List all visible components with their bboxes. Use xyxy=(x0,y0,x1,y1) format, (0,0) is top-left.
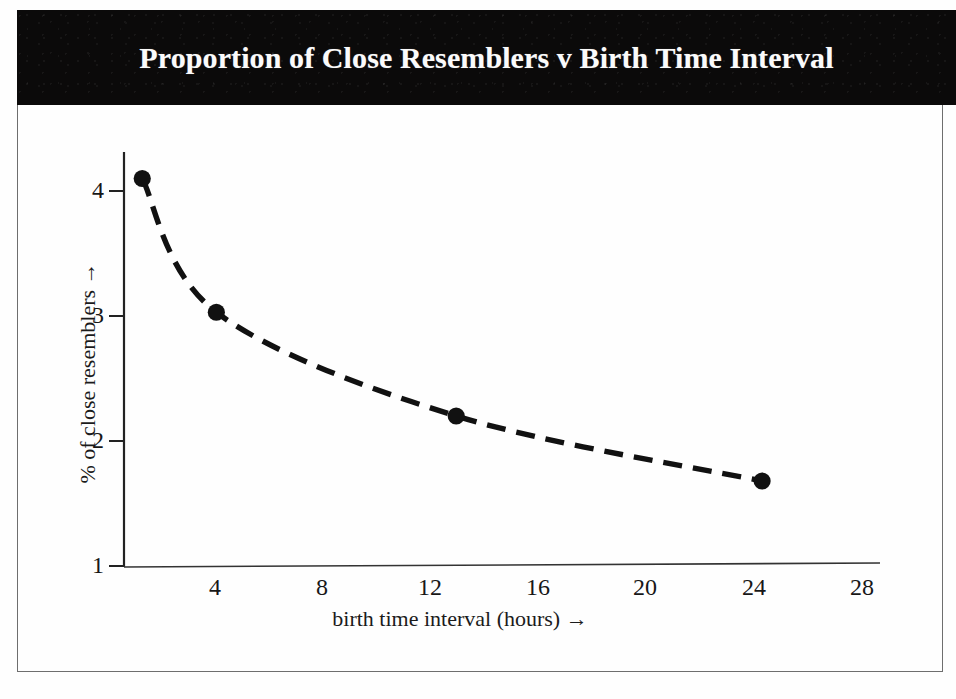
x-axis-line xyxy=(124,563,880,567)
plot-area: % of close resemblers → birth time inter… xyxy=(0,0,956,699)
data-series-group xyxy=(134,170,771,490)
chart-figure: Proportion of Close Resemblers v Birth T… xyxy=(0,0,956,699)
series-line-dashed xyxy=(142,179,762,482)
series-markers xyxy=(134,170,771,490)
axes-group xyxy=(109,152,880,567)
data-point-marker xyxy=(448,407,465,424)
graph-svg xyxy=(0,0,956,699)
data-point-marker xyxy=(208,304,225,321)
chart-title: Proportion of Close Resemblers v Birth T… xyxy=(17,41,956,75)
data-point-marker xyxy=(753,472,770,489)
data-point-marker xyxy=(134,170,151,187)
